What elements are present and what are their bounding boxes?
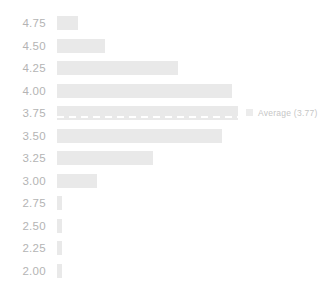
bar-row: 2.50 <box>0 215 328 238</box>
bar <box>57 196 62 210</box>
bar <box>57 129 222 143</box>
bar-row: 4.50 <box>0 35 328 58</box>
bar <box>57 84 232 98</box>
bar <box>57 264 62 278</box>
y-axis-tick-label: 3.25 <box>0 147 46 170</box>
bar <box>57 219 62 233</box>
plot-area: 4.754.504.254.003.75Average (3.77)3.503.… <box>0 0 328 287</box>
y-axis-tick-label: 4.00 <box>0 80 46 103</box>
bar-row: 3.25 <box>0 147 328 170</box>
y-axis-tick-label: 2.25 <box>0 237 46 260</box>
y-axis-tick-label: 3.50 <box>0 125 46 148</box>
bar-row: 4.25 <box>0 57 328 80</box>
bar-chart: 4.754.504.254.003.75Average (3.77)3.503.… <box>0 0 328 287</box>
bar <box>57 174 97 188</box>
bar-row: 4.75 <box>0 12 328 35</box>
average-dashed-line <box>57 116 238 118</box>
bar-row: 3.75Average (3.77) <box>0 102 328 125</box>
y-axis-tick-label: 4.75 <box>0 12 46 35</box>
average-legend-swatch <box>246 109 253 116</box>
bar-row: 4.00 <box>0 80 328 103</box>
bar-row: 3.50 <box>0 125 328 148</box>
y-axis-tick-label: 4.50 <box>0 35 46 58</box>
bar-row: 2.25 <box>0 237 328 260</box>
bar <box>57 61 178 75</box>
y-axis-tick-label: 2.00 <box>0 260 46 283</box>
bar <box>57 241 62 255</box>
y-axis-tick-label: 3.75 <box>0 102 46 125</box>
y-axis-tick-label: 2.50 <box>0 215 46 238</box>
bar-row: 2.75 <box>0 192 328 215</box>
bar <box>57 151 153 165</box>
bar <box>57 39 105 53</box>
y-axis-tick-label: 4.25 <box>0 57 46 80</box>
y-axis-tick-label: 2.75 <box>0 192 46 215</box>
bar-row: 3.00 <box>0 170 328 193</box>
average-annotation-label: Average (3.77) <box>258 108 318 118</box>
bar <box>57 16 78 30</box>
bar-row: 2.00 <box>0 260 328 283</box>
y-axis-tick-label: 3.00 <box>0 170 46 193</box>
